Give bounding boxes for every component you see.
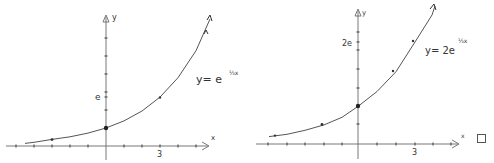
right-x-tick-3: 3	[412, 148, 417, 157]
left-curve-exp	[25, 19, 210, 143]
right-y-axis-label: y	[362, 9, 366, 17]
right-point-x-neg2	[321, 123, 324, 126]
right-equation: y= 2e	[425, 45, 455, 56]
right-y-tick-2e: 2e	[342, 39, 352, 48]
right-curve-top-arrow-icon	[430, 4, 436, 10]
left-point-x-neg3	[51, 138, 54, 141]
left-point-y-intercept	[104, 126, 108, 130]
right-graph: y x 3 2e y= 2e ⅓x	[256, 4, 468, 159]
right-point-y-intercept	[356, 104, 360, 108]
right-point-x-2	[392, 70, 394, 72]
right-x-axis-label: x	[461, 132, 465, 139]
left-point-x-3	[159, 96, 161, 98]
end-of-proof-square-icon	[477, 134, 486, 143]
left-equation-exponent: ⅓x	[229, 69, 239, 76]
right-point-x-neg4	[274, 134, 276, 136]
left-y-tick-e: e	[95, 92, 101, 102]
right-point-x-3	[412, 40, 414, 42]
right-equation-exponent: ⅓x	[458, 37, 468, 44]
left-x-axis-label: x	[211, 134, 215, 142]
left-equation: y= e	[196, 73, 222, 86]
graphs-canvas: y x 3 e y= e ⅓x	[0, 0, 494, 163]
left-x-tick-3: 3	[157, 150, 162, 159]
right-curve-exp	[269, 6, 435, 137]
left-y-axis-label: y	[112, 13, 117, 22]
left-graph: y x 3 e y= e ⅓x	[6, 13, 239, 160]
